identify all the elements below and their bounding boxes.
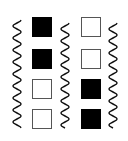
square-col2-row2-empty xyxy=(81,49,101,69)
wavy-line-middle xyxy=(59,22,71,129)
wavy-line-left xyxy=(11,19,23,129)
square-col2-row4-filled xyxy=(81,109,101,129)
square-col2-row1-empty xyxy=(81,17,101,37)
wavy-line-right xyxy=(107,22,119,129)
square-col1-row3-empty xyxy=(32,79,52,99)
square-col1-row1-filled xyxy=(32,17,52,37)
square-col1-row2-filled xyxy=(32,49,52,69)
square-col2-row3-filled xyxy=(81,79,101,99)
square-col1-row4-empty xyxy=(32,109,52,129)
